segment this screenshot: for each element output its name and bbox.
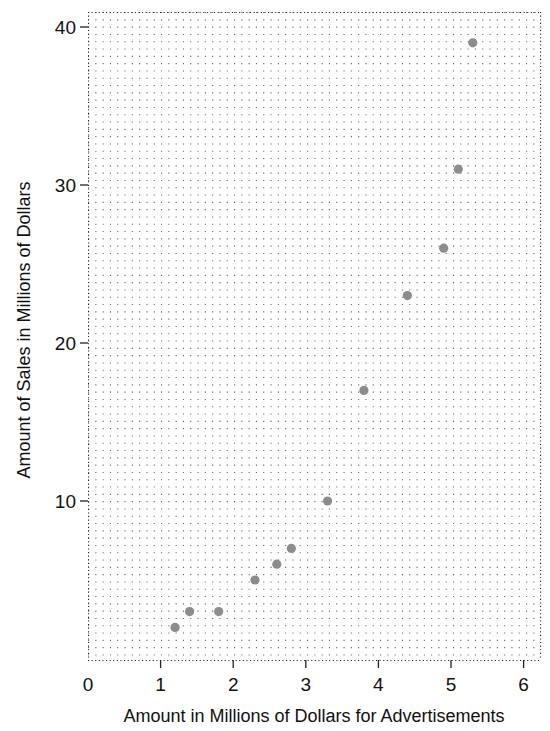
dotted-grid bbox=[88, 12, 541, 661]
data-point bbox=[185, 607, 194, 616]
x-tick-label: 0 bbox=[83, 674, 94, 695]
data-point bbox=[323, 496, 332, 505]
y-axis-title: Amount of Sales in Millions of Dollars bbox=[14, 181, 34, 478]
y-tick-label: 40 bbox=[55, 17, 76, 38]
x-tick-label: 4 bbox=[373, 674, 384, 695]
x-tick-label: 2 bbox=[228, 674, 239, 695]
data-point bbox=[287, 544, 296, 553]
data-point bbox=[250, 575, 259, 584]
data-point bbox=[454, 165, 463, 174]
scatter-chart: 0123456 10203040 Amount in Millions of D… bbox=[0, 0, 550, 731]
plot-border-dots bbox=[88, 12, 541, 661]
y-tick-label: 30 bbox=[55, 175, 76, 196]
x-tick-label: 5 bbox=[446, 674, 457, 695]
y-tick-label: 10 bbox=[55, 491, 76, 512]
x-axis-ticks: 0123456 bbox=[83, 660, 529, 695]
y-axis-ticks: 10203040 bbox=[55, 17, 88, 512]
data-point bbox=[468, 38, 477, 47]
data-point bbox=[439, 244, 448, 253]
data-point bbox=[272, 560, 281, 569]
x-tick-label: 1 bbox=[155, 674, 166, 695]
data-points bbox=[171, 38, 478, 632]
x-axis-title: Amount in Millions of Dollars for Advert… bbox=[123, 706, 504, 726]
data-point bbox=[171, 623, 180, 632]
x-tick-label: 6 bbox=[518, 674, 529, 695]
grid-dots bbox=[88, 12, 534, 656]
data-point bbox=[403, 291, 412, 300]
y-tick-label: 20 bbox=[55, 333, 76, 354]
data-point bbox=[359, 386, 368, 395]
data-point bbox=[214, 607, 223, 616]
x-tick-label: 3 bbox=[301, 674, 312, 695]
